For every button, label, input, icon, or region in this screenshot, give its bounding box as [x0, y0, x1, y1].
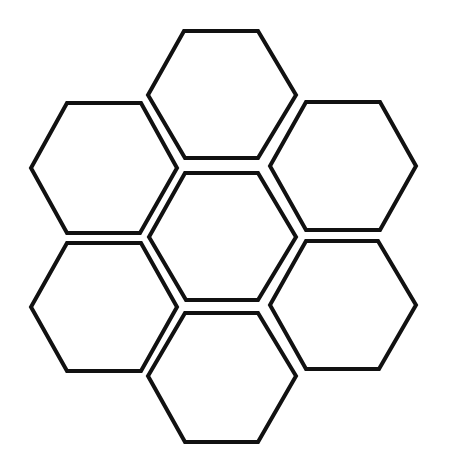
hexagon-upper-left: [31, 103, 177, 233]
hexagon-bottom: [148, 313, 296, 442]
hexagon-cluster-diagram: [0, 0, 451, 472]
hexagon-lower-left: [31, 243, 177, 371]
hexagon-lower-right: [270, 241, 416, 369]
hexagon-top: [148, 31, 296, 158]
hexagon-center: [149, 173, 296, 300]
hexagon-upper-right: [270, 102, 416, 230]
